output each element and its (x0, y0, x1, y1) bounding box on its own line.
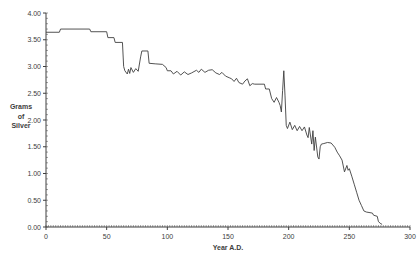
x-tick-label: 250 (343, 233, 355, 240)
x-tick-label: 200 (283, 233, 295, 240)
x-tick-label: 50 (103, 233, 111, 240)
y-axis-title-line2: of (2, 112, 40, 122)
series-line (46, 29, 382, 224)
y-tick-label: 4.00 (27, 10, 41, 17)
x-tick-label: 0 (44, 233, 48, 240)
y-tick-label: 0.00 (27, 224, 41, 231)
y-tick-label: 2.50 (27, 90, 41, 97)
chart-figure: 0501001502002503000.000.501.001.502.002.… (0, 0, 419, 258)
y-tick-label: 1.00 (27, 170, 41, 177)
line-chart-canvas: 0501001502002503000.000.501.001.502.002.… (0, 0, 419, 258)
x-axis-title: Year A.D. (46, 244, 410, 251)
y-tick-label: 0.50 (27, 197, 41, 204)
y-tick-label: 3.00 (27, 63, 41, 70)
y-axis-title-line3: Silver (2, 121, 40, 131)
y-tick-label: 3.50 (27, 36, 41, 43)
x-tick-label: 300 (404, 233, 416, 240)
y-axis-title-line1: Grams (2, 102, 40, 112)
y-tick-label: 1.50 (27, 143, 41, 150)
y-axis-title: Grams of Silver (2, 102, 40, 131)
x-tick-label: 100 (161, 233, 173, 240)
x-tick-label: 150 (222, 233, 234, 240)
